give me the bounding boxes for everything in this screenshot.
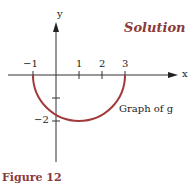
figure-caption: Figure 12	[2, 171, 62, 184]
y-axis-arrow-icon	[53, 22, 59, 32]
x-tick-label: −1	[23, 58, 38, 69]
x-tick-label: 1	[76, 58, 82, 69]
y-tick-label: −2	[34, 114, 49, 125]
y-axis-label: y	[57, 8, 63, 19]
x-axis-label: x	[182, 68, 188, 79]
x-axis-arrow-icon	[168, 72, 178, 78]
x-tick-label: 2	[99, 58, 105, 69]
graph-label: Graph of g	[119, 103, 173, 114]
graph-diagram	[0, 0, 195, 189]
x-tick-label: 3	[122, 58, 128, 69]
